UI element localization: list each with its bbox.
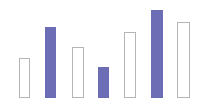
- bar-2: [45, 27, 56, 98]
- bar-6: [151, 10, 163, 98]
- bar-7: [177, 22, 190, 98]
- bar-1: [19, 58, 30, 98]
- bar-4: [98, 67, 109, 98]
- bar-chart: [0, 0, 206, 108]
- bar-3: [72, 47, 84, 98]
- plot-area: [0, 0, 206, 108]
- bar-5: [124, 32, 136, 98]
